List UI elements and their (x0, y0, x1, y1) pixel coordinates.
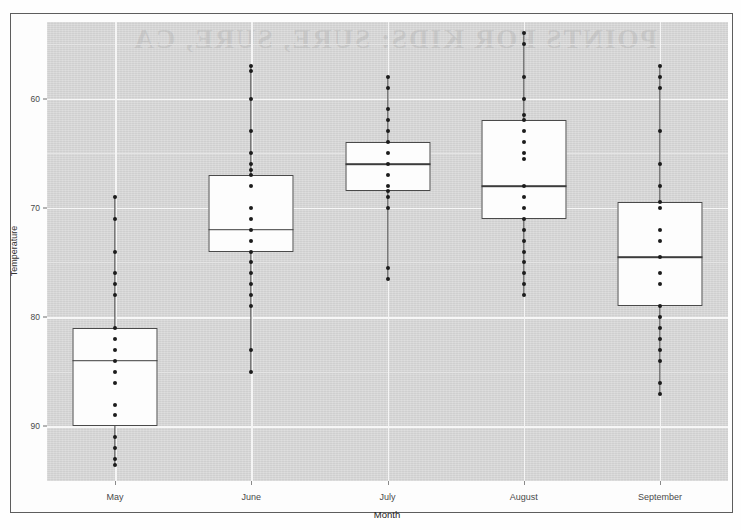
data-point (658, 337, 662, 341)
data-point (113, 282, 117, 286)
data-point (522, 239, 526, 243)
data-point (249, 250, 253, 254)
data-point (249, 184, 253, 188)
data-point (249, 151, 253, 155)
data-point (658, 184, 662, 188)
data-point (522, 113, 526, 117)
data-point (386, 107, 390, 111)
y-tick-label-90: 60 (10, 94, 40, 104)
data-point (658, 239, 662, 243)
data-point (386, 118, 390, 122)
y-tick-label-70: 80 (10, 312, 40, 322)
data-point (249, 271, 253, 275)
data-point (658, 162, 662, 166)
data-point (113, 326, 117, 330)
x-tick-label-september: September (638, 492, 682, 502)
x-tick-mark-august (524, 481, 525, 485)
data-point (386, 86, 390, 90)
y-tick-mark-60 (43, 426, 47, 427)
data-point (113, 217, 117, 221)
x-tick-mark-may (115, 481, 116, 485)
data-point (522, 31, 526, 35)
data-point (249, 260, 253, 264)
data-point (522, 195, 526, 199)
data-point (522, 271, 526, 275)
data-point (658, 64, 662, 68)
y-tick-mark-80 (43, 207, 47, 208)
data-point (249, 293, 253, 297)
data-point (113, 337, 117, 341)
data-point (522, 217, 526, 221)
data-point (249, 206, 253, 210)
data-point (522, 118, 526, 122)
data-point (658, 228, 662, 232)
x-tick-label-july: July (379, 492, 395, 502)
data-point (113, 413, 117, 417)
data-point (113, 359, 117, 363)
data-point (113, 457, 117, 461)
data-point (386, 151, 390, 155)
data-point (522, 228, 526, 232)
data-point (386, 75, 390, 79)
data-point (658, 271, 662, 275)
data-point (386, 173, 390, 177)
box-iqr-may (73, 328, 158, 426)
data-point (658, 392, 662, 396)
x-tick-label-august: August (510, 492, 538, 502)
data-point (522, 129, 526, 133)
data-point (386, 140, 390, 144)
data-point (249, 282, 253, 286)
data-point (113, 435, 117, 439)
data-point (386, 206, 390, 210)
data-point (113, 250, 117, 254)
data-point (113, 271, 117, 275)
data-point (249, 64, 253, 68)
x-axis-title: Month (374, 509, 400, 520)
data-point (658, 359, 662, 363)
data-point (249, 69, 253, 73)
data-point (113, 293, 117, 297)
y-tick-label-80: 70 (10, 203, 40, 213)
data-point (249, 217, 253, 221)
y-tick-label-60: 90 (10, 421, 40, 431)
data-point (113, 348, 117, 352)
data-point (658, 381, 662, 385)
data-point (522, 75, 526, 79)
data-point (249, 168, 253, 172)
data-point (522, 97, 526, 101)
data-point (113, 195, 117, 199)
data-point (522, 42, 526, 46)
data-point (386, 162, 390, 166)
data-point (658, 255, 662, 259)
data-point (658, 206, 662, 210)
x-tick-label-june: June (242, 492, 262, 502)
data-point (522, 250, 526, 254)
data-point (249, 348, 253, 352)
data-point (113, 446, 117, 450)
data-point (113, 463, 117, 467)
x-tick-mark-july (388, 481, 389, 485)
data-point (113, 403, 117, 407)
data-point (249, 239, 253, 243)
data-point (249, 97, 253, 101)
data-point (658, 315, 662, 319)
x-tick-mark-september (660, 481, 661, 485)
data-point (522, 140, 526, 144)
data-point (249, 228, 253, 232)
data-point (522, 151, 526, 155)
data-point (658, 304, 662, 308)
y-tick-mark-70 (43, 317, 47, 318)
data-point (113, 370, 117, 374)
data-point (386, 189, 390, 193)
data-point (113, 381, 117, 385)
data-point (522, 293, 526, 297)
data-point (522, 282, 526, 286)
plot-panel: POINTS FOR KIDS: SURE, SURE, CA (47, 22, 728, 481)
data-point (658, 326, 662, 330)
data-point (658, 282, 662, 286)
data-point (658, 348, 662, 352)
data-point (249, 304, 253, 308)
data-point (522, 157, 526, 161)
data-point (522, 184, 526, 188)
data-point (249, 370, 253, 374)
